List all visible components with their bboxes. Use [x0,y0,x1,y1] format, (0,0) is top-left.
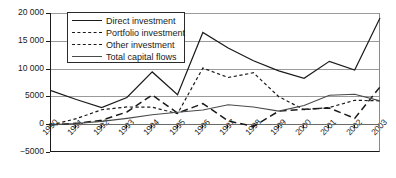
legend-swatch-icon [72,52,102,62]
y-tick-label-10000: 10 000 [0,63,44,73]
y-tick--5000 [46,152,50,153]
legend-label: Total capital flows [106,52,177,62]
capital-flows-line-chart: −50000500010 00015 00020 000 19901991199… [0,0,396,178]
legend-item-total-capital-flows: Total capital flows [68,51,184,63]
y-tick-label--5000: −5000 [0,146,44,156]
legend-swatch-icon [72,40,102,50]
legend-label: Portfolio investment [106,28,185,38]
y-tick-label-0: 0 [0,118,44,128]
legend-item-portfolio-investment: Portfolio investment [68,27,184,39]
legend-label: Direct investment [106,16,176,26]
legend-label: Other investment [106,40,175,50]
y-tick-label-20000: 20 000 [0,7,44,17]
chart-legend: Direct investmentPortfolio investmentOth… [67,12,185,63]
y-tick-label-15000: 15 000 [0,35,44,45]
legend-item-other-investment: Other investment [68,39,184,51]
legend-item-direct-investment: Direct investment [68,15,184,27]
series-other-investment [51,68,380,125]
legend-swatch-icon [72,28,102,38]
legend-swatch-icon [72,16,102,26]
y-tick-label-5000: 5000 [0,90,44,100]
